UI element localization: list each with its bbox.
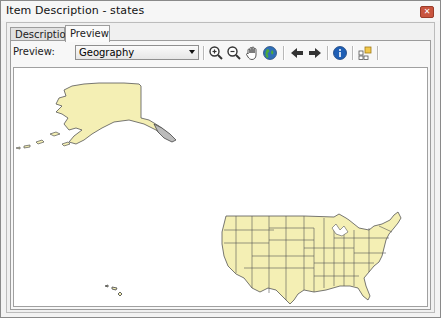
pan-hand-icon (244, 45, 260, 61)
zoom-in-button[interactable] (208, 45, 224, 61)
preview-type-value: Geography (79, 47, 134, 58)
preview-toolbar: Preview: Geography (11, 41, 430, 67)
toolbar-separator (327, 46, 329, 60)
zoom-in-icon (208, 45, 224, 61)
toolbar-separator (352, 46, 354, 60)
tab-preview[interactable]: Preview (65, 25, 110, 42)
close-icon: ✕ (424, 7, 431, 16)
preview-type-select[interactable]: Geography (75, 45, 199, 60)
thumbnail-icon (357, 45, 373, 61)
toolbar-separator (377, 46, 379, 60)
create-thumbnail-button[interactable] (357, 45, 373, 61)
pan-button[interactable] (244, 45, 260, 61)
item-description-window: Item Description - states ✕ Description … (0, 0, 441, 318)
toolbar-separator (203, 46, 205, 60)
back-extent-button[interactable] (289, 45, 305, 61)
alaska-panhandle (154, 124, 176, 142)
aleutian-islands (16, 132, 70, 149)
arrow-left-icon (289, 45, 305, 61)
states-map (14, 68, 428, 307)
close-button[interactable]: ✕ (420, 6, 434, 18)
tab-description[interactable]: Description (10, 27, 65, 41)
full-extent-button[interactable] (262, 45, 278, 61)
contiguous-us-shape (222, 212, 401, 304)
identify-button[interactable] (332, 45, 348, 61)
dialog-body: Description Preview Preview: Geography (6, 22, 435, 313)
globe-icon (262, 45, 278, 61)
preview-panel: Preview: Geography (10, 40, 431, 310)
arrow-right-icon (307, 45, 323, 61)
map-preview[interactable] (13, 67, 428, 307)
window-title: Item Description - states (6, 4, 144, 17)
hawaii-shape (105, 285, 122, 296)
chevron-down-icon (189, 50, 195, 54)
zoom-out-icon (226, 45, 242, 61)
alaska-shape (56, 83, 174, 144)
toolbar-separator (283, 46, 285, 60)
preview-label: Preview: (13, 46, 55, 57)
zoom-out-button[interactable] (226, 45, 242, 61)
forward-extent-button[interactable] (307, 45, 323, 61)
info-icon (332, 45, 348, 61)
title-bar: Item Description - states ✕ (1, 1, 440, 21)
